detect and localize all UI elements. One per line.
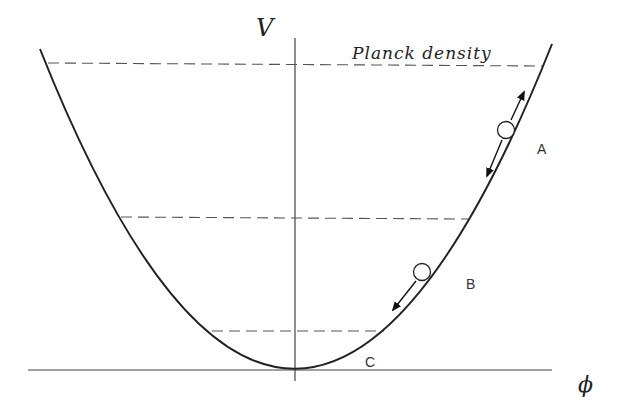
potential-curve [40, 44, 552, 369]
region-a-label: A [537, 141, 547, 157]
x-axis-label: ϕ [578, 372, 593, 397]
ball-a [498, 122, 515, 139]
ball-b [414, 264, 431, 281]
y-axis-label: V [256, 14, 276, 42]
region-b-label: B [466, 276, 475, 292]
planck-density-label: Planck density [351, 43, 492, 63]
arrow-downhill-icon [393, 281, 416, 310]
potential-diagram: V ϕ Planck density A B C [0, 0, 622, 413]
region-c-label: C [365, 354, 375, 370]
